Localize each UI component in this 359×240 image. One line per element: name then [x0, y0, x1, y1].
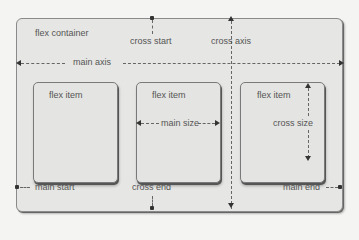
cross-start-label: cross start — [130, 36, 172, 46]
cross-size-line-bottom — [308, 130, 309, 158]
main-end-marker-icon — [338, 185, 342, 189]
flex-container-label: flex container — [35, 28, 89, 38]
cross-size-arrow-down-icon — [305, 156, 311, 161]
cross-end-label: cross end — [132, 182, 171, 192]
cross-axis-label: cross axis — [211, 36, 251, 46]
cross-axis-arrow-down-icon — [228, 203, 234, 208]
main-axis-label: main axis — [73, 57, 111, 67]
main-size-arrow-right-icon — [215, 120, 220, 126]
main-size-label: main size — [161, 118, 199, 128]
cross-axis-line — [231, 21, 232, 209]
flex-item-2-label: flex item — [152, 90, 186, 100]
main-axis-line-right — [123, 63, 340, 64]
main-end-line — [326, 187, 338, 188]
main-axis-line-left — [21, 63, 65, 64]
main-start-line — [20, 187, 30, 188]
cross-start-line — [152, 20, 153, 34]
cross-end-marker-icon — [150, 206, 154, 210]
main-start-marker-icon — [15, 185, 19, 189]
main-axis-arrow-right-icon — [339, 60, 344, 66]
main-size-line-right — [198, 123, 215, 124]
flex-item-1-label: flex item — [49, 90, 83, 100]
cross-size-label: cross size — [273, 118, 313, 128]
cross-end-line — [152, 196, 153, 206]
cross-size-line-top — [308, 88, 309, 116]
main-start-label: main start — [35, 182, 75, 192]
main-size-line-left — [141, 123, 159, 124]
main-end-label: main end — [283, 182, 320, 192]
flex-item-3-label: flex item — [257, 90, 291, 100]
